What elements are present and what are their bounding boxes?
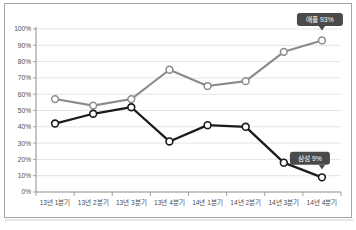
data-point-marker (128, 104, 135, 111)
y-axis-tick-label: 70% (18, 74, 31, 81)
apple-callout[interactable]: 애플 93% (297, 13, 343, 31)
data-point-marker (166, 138, 173, 145)
data-point-marker (280, 48, 287, 55)
data-point-marker (52, 120, 59, 127)
x-axis-tick-label: 13년 2분기 (78, 198, 109, 207)
data-point-marker (90, 102, 97, 109)
y-axis-tick-label: 100% (14, 25, 31, 32)
y-axis-tick-label: 50% (18, 107, 31, 114)
y-axis-tick-label: 0% (21, 188, 31, 195)
data-point-marker (280, 159, 287, 166)
y-axis-tick-label: 40% (18, 123, 31, 130)
y-axis-tick-label: 20% (18, 156, 31, 163)
series-markers-samsung (52, 104, 326, 181)
data-point-marker (166, 66, 173, 73)
samsung-callout-label: 삼성 9% (298, 154, 322, 162)
y-axis-tick-label: 10% (18, 172, 31, 179)
data-point-marker (319, 37, 326, 44)
y-axis-tick-labels: 100%90%80%70%60%50%40%30%20%10%0% (14, 25, 31, 195)
x-axis-tick-label: 13년 4분기 (154, 198, 185, 207)
x-axis-tick-marks (36, 192, 341, 196)
samsung-callout-arrow (319, 165, 325, 170)
apple-callout-label: 애플 93% (306, 15, 334, 24)
data-point-marker (242, 123, 249, 130)
y-axis-tick-label: 30% (18, 140, 31, 147)
x-axis-tick-labels: 13년 1분기13년 2분기13년 3분기13년 4분기14년 1분기14년 2… (40, 198, 338, 207)
line-chart-svg: 100%90%80%70%60%50%40%30%20%10%0% 13년 1분… (0, 0, 356, 230)
y-axis-tick-label: 80% (18, 58, 31, 65)
data-point-marker (204, 83, 211, 90)
y-axis-tick-label: 90% (18, 42, 31, 49)
x-axis-tick-label: 13년 1분기 (40, 198, 71, 207)
x-axis-tick-label: 14년 3분기 (268, 198, 299, 207)
data-point-marker (52, 96, 59, 103)
data-point-marker (128, 96, 135, 103)
x-axis-tick-label: 14년 2분기 (230, 198, 261, 207)
data-point-marker (319, 174, 326, 181)
x-axis-tick-label: 14년 1분기 (192, 198, 223, 207)
data-point-marker (204, 122, 211, 129)
apple-callout-arrow (319, 26, 325, 31)
data-point-marker (90, 110, 97, 117)
x-axis-tick-label: 13년 3분기 (116, 198, 147, 207)
y-axis-tick-label: 60% (18, 91, 31, 98)
chart-figure: 100%90%80%70%60%50%40%30%20%10%0% 13년 1분… (0, 0, 356, 230)
data-point-marker (242, 78, 249, 85)
series-markers-apple (52, 37, 326, 109)
x-axis-tick-label: 14년 4분기 (307, 198, 338, 207)
plot-area: 100%90%80%70%60%50%40%30%20%10%0% 13년 1분… (0, 0, 356, 230)
series-line-samsung (55, 107, 322, 177)
